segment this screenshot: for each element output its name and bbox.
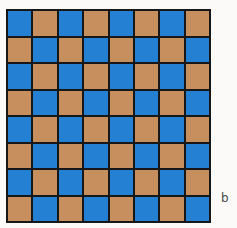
checkerboard-cell xyxy=(135,38,158,63)
checkerboard-cell xyxy=(186,117,209,142)
checkerboard-cell xyxy=(8,11,31,36)
checkerboard-cell xyxy=(8,197,31,222)
checkerboard-cell xyxy=(84,38,107,63)
checkerboard-cell xyxy=(8,64,31,89)
checkerboard-cell xyxy=(59,64,82,89)
checkerboard-cell xyxy=(59,197,82,222)
checkerboard-cell xyxy=(110,144,133,169)
checkerboard-cell xyxy=(8,117,31,142)
checkerboard-cell xyxy=(33,64,56,89)
checkerboard-cell xyxy=(33,11,56,36)
checkerboard-cell xyxy=(33,170,56,195)
checkerboard-cell xyxy=(160,144,183,169)
figure-panel: b xyxy=(0,0,237,228)
checkerboard-cell xyxy=(84,117,107,142)
checkerboard-cell xyxy=(160,11,183,36)
checkerboard-cell xyxy=(33,197,56,222)
checkerboard-cell xyxy=(135,197,158,222)
checkerboard-cell xyxy=(8,38,31,63)
checkerboard-cell xyxy=(110,197,133,222)
checkerboard-cell xyxy=(59,91,82,116)
checkerboard-cell xyxy=(33,117,56,142)
checkerboard-cell xyxy=(135,117,158,142)
checkerboard-cell xyxy=(59,144,82,169)
checkerboard-cell xyxy=(110,64,133,89)
checkerboard-cell xyxy=(59,170,82,195)
checkerboard-cell xyxy=(186,11,209,36)
checkerboard-cell xyxy=(186,197,209,222)
checkerboard-cell xyxy=(110,38,133,63)
checkerboard-cell xyxy=(33,144,56,169)
checkerboard-cell xyxy=(59,117,82,142)
checkerboard-cell xyxy=(8,91,31,116)
checkerboard-cell xyxy=(186,144,209,169)
panel-label: b xyxy=(221,192,229,205)
checkerboard-cell xyxy=(110,170,133,195)
checkerboard-cell xyxy=(8,144,31,169)
checkerboard-cell xyxy=(135,11,158,36)
checkerboard-cell xyxy=(160,197,183,222)
checkerboard-cell xyxy=(84,144,107,169)
checkerboard-cell xyxy=(84,11,107,36)
checkerboard-cell xyxy=(160,117,183,142)
checkerboard-cell xyxy=(59,11,82,36)
checkerboard-cell xyxy=(135,64,158,89)
checkerboard-cell xyxy=(8,170,31,195)
checkerboard-cell xyxy=(84,170,107,195)
checkerboard-grid xyxy=(7,10,210,222)
checkerboard-cell xyxy=(135,91,158,116)
checkerboard-cell xyxy=(33,91,56,116)
checkerboard-cell xyxy=(84,64,107,89)
checkerboard-cell xyxy=(186,38,209,63)
checkerboard-cell xyxy=(110,91,133,116)
checkerboard-cell xyxy=(135,170,158,195)
checkerboard-cell xyxy=(33,38,56,63)
checkerboard-cell xyxy=(186,64,209,89)
checkerboard-cell xyxy=(160,38,183,63)
checkerboard-cell xyxy=(84,197,107,222)
checkerboard-cell xyxy=(186,170,209,195)
checkerboard-cell xyxy=(160,64,183,89)
checkerboard-cell xyxy=(160,170,183,195)
checkerboard-cell xyxy=(110,11,133,36)
checkerboard-cell xyxy=(84,91,107,116)
checkerboard-cell xyxy=(135,144,158,169)
checkerboard-cell xyxy=(59,38,82,63)
checkerboard-cell xyxy=(186,91,209,116)
checkerboard-cell xyxy=(110,117,133,142)
checkerboard-cell xyxy=(160,91,183,116)
